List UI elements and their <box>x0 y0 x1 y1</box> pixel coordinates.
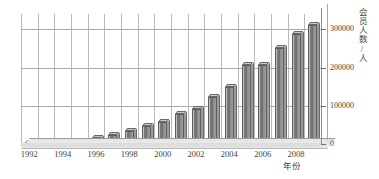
gridline-vertical <box>104 14 105 144</box>
bar-front-face <box>242 65 251 144</box>
x-axis-tick-label: 2002 <box>180 150 212 159</box>
bar-top-face <box>192 106 203 109</box>
y-axis-title: 会员人数/人 <box>355 8 367 63</box>
bar-side-face <box>217 95 220 144</box>
gridline-vertical <box>221 14 222 144</box>
gridline-vertical <box>254 14 255 144</box>
x-axis-tick-label: 2000 <box>147 150 179 159</box>
gridline-vertical <box>71 14 72 144</box>
gridline-vertical <box>288 14 289 144</box>
gridline-vertical <box>171 14 172 144</box>
bar-top-face <box>242 62 253 65</box>
y-axis-tick-label: 200000 <box>330 64 354 72</box>
bar-front-face <box>292 34 301 144</box>
x-axis-tick-label: 2004 <box>213 150 245 159</box>
y-axis-tick-mark <box>321 144 326 145</box>
gridline-vertical <box>304 14 305 144</box>
y-axis-tick-label: 100000 <box>330 102 354 110</box>
gridline-vertical <box>204 14 205 144</box>
gridline-vertical <box>88 14 89 144</box>
gridline-vertical <box>271 14 272 144</box>
gridline-vertical <box>21 14 22 144</box>
gridline-vertical <box>188 14 189 144</box>
x-axis-tick-label: 1998 <box>113 150 145 159</box>
floor-front <box>21 143 321 147</box>
bar-chart: 0100000200000300000 19921994199619982000… <box>0 0 379 179</box>
bar-top-face <box>292 31 303 34</box>
plot-area <box>21 14 321 144</box>
gridline-vertical <box>121 14 122 144</box>
bar-front-face <box>258 65 267 144</box>
gridline-vertical <box>154 14 155 144</box>
x-axis-tick-label: 1992 <box>13 150 45 159</box>
bar-front-face <box>208 97 217 144</box>
bar-front-face <box>225 87 234 144</box>
gridline-vertical <box>54 14 55 144</box>
bar-side-face <box>234 85 237 144</box>
x-axis-title: 年份 <box>283 162 301 171</box>
y-axis-tick-mark <box>321 68 326 69</box>
gridline-vertical <box>38 14 39 144</box>
bar-front-face <box>275 48 284 144</box>
x-axis-tick-label: 1994 <box>47 150 79 159</box>
bar-front-face <box>308 25 317 144</box>
x-axis-tick-label: 2008 <box>280 150 312 159</box>
gridline-vertical <box>238 14 239 144</box>
x-axis-tick-label: 1996 <box>80 150 112 159</box>
x-axis-tick-label: 2006 <box>247 150 279 159</box>
bar-side-face <box>301 32 304 144</box>
gridline-horizontal <box>21 29 321 30</box>
bar-top-face <box>142 123 153 126</box>
y-axis-tick-mark <box>321 29 326 30</box>
y-axis-tick-label: 300000 <box>330 25 354 33</box>
y-axis-tick-label: 0 <box>330 140 334 148</box>
y-axis-tick-mark <box>321 106 326 107</box>
bar-side-face <box>317 23 320 144</box>
gridline-vertical <box>138 14 139 144</box>
bar-side-face <box>267 63 270 144</box>
y-axis-line-secondary <box>327 4 328 140</box>
bar-side-face <box>251 63 254 144</box>
bar-side-face <box>284 46 287 144</box>
